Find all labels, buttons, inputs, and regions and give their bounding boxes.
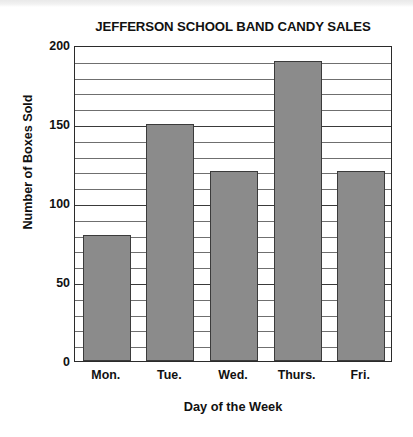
chart-title: JEFFERSON SCHOOL BAND CANDY SALES [74, 19, 392, 34]
y-tick-label-50: 50 [36, 276, 70, 290]
bar-thurs [274, 61, 322, 361]
x-tick-label-wed: Wed. [218, 368, 247, 382]
x-tick-label-tue: Tue. [157, 368, 182, 382]
bars-layer [75, 47, 391, 361]
y-tick-label-100: 100 [36, 197, 70, 211]
x-tick-label-thurs: Thurs. [278, 368, 316, 382]
y-axis-tick-labels: 050100150200 [34, 46, 70, 362]
bar-mon [83, 235, 131, 361]
scan-artifact-band [0, 0, 413, 7]
x-axis-title: Day of the Week [74, 399, 392, 414]
bar-tue [146, 124, 194, 361]
bar-fri [337, 171, 385, 361]
plot-area [74, 46, 392, 362]
y-axis-title: Number of Boxes Sold [21, 52, 35, 272]
y-tick-label-200: 200 [36, 39, 70, 53]
x-tick-label-fri: Fri. [351, 368, 370, 382]
x-tick-label-mon: Mon. [91, 368, 120, 382]
x-axis-tick-labels: Mon.Tue.Wed.Thurs.Fri. [74, 368, 392, 386]
bar-wed [210, 171, 258, 361]
y-tick-label-0: 0 [36, 355, 70, 369]
y-tick-label-150: 150 [36, 118, 70, 132]
